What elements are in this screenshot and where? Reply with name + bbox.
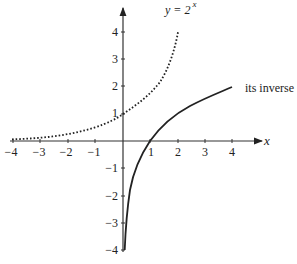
y-tick-label: −3 <box>105 217 118 229</box>
curve-label-exponential: y = 2x <box>165 2 196 16</box>
y-tick-label: 2 <box>112 80 118 92</box>
x-tick-label: 1 <box>148 146 154 158</box>
curve-label-exponent: x <box>192 0 196 9</box>
x-tick-label: −4 <box>5 146 18 158</box>
x-tick-label: −1 <box>88 146 101 158</box>
y-tick-label: −2 <box>105 190 118 202</box>
x-tick-label: 2 <box>175 146 181 158</box>
curve-inverse <box>125 87 232 250</box>
x-tick-label: −2 <box>60 146 73 158</box>
y-tick-label: −1 <box>105 162 118 174</box>
curve-label-base: y = 2 <box>165 3 190 17</box>
y-tick-label: 1 <box>112 107 118 119</box>
plot-area <box>0 0 297 264</box>
curve-exponential <box>12 32 178 139</box>
x-tick-label: −3 <box>33 146 46 158</box>
y-tick-label: −4 <box>105 244 118 256</box>
y-tick-label: 3 <box>112 53 118 65</box>
x-tick-label: 4 <box>229 146 235 158</box>
x-tick-label: 3 <box>202 146 208 158</box>
curve-label-inverse: its inverse <box>245 82 294 94</box>
x-axis-label: x <box>264 134 270 147</box>
y-tick-label: 4 <box>112 26 118 38</box>
